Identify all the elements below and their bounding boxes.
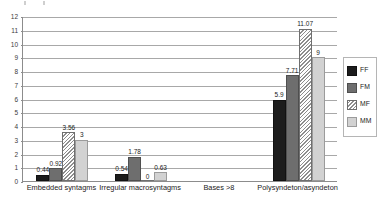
legend-item-ff[interactable]: FF xyxy=(347,62,376,79)
plot-area: 0.44 0.92 3.56 3 0.54 1.78 xyxy=(22,17,337,182)
bar-mm[interactable] xyxy=(312,57,325,181)
legend-swatch-icon xyxy=(347,83,357,93)
bar-mm[interactable] xyxy=(154,172,167,181)
legend-item-mf[interactable]: MF xyxy=(347,96,376,113)
y-tick-label: 11 xyxy=(11,28,18,35)
bar-ff[interactable] xyxy=(36,175,49,181)
y-tick-label: 4 xyxy=(14,124,18,131)
bar-group xyxy=(181,17,260,181)
legend-label: MM xyxy=(360,118,371,125)
bar-slot: 7.71 xyxy=(286,17,299,181)
bar-slot: 0.92 xyxy=(49,17,62,181)
x-category-label: Bases >8 xyxy=(203,184,234,192)
bar-slot: 0.54 xyxy=(115,17,128,181)
y-tick-label: 7 xyxy=(14,83,18,90)
y-tick-label: 1 xyxy=(14,165,18,172)
legend-swatch-icon xyxy=(347,117,357,127)
y-tick-label: 12 xyxy=(11,14,18,21)
bar-slot xyxy=(207,17,220,181)
y-tick-label: 10 xyxy=(11,41,18,48)
y-tick-label: 9 xyxy=(14,55,18,62)
bar-value-label: 1.78 xyxy=(128,149,141,156)
y-tick-label: 5 xyxy=(14,110,18,117)
x-category-label: Irregular macrosyntagms xyxy=(99,184,181,192)
bar-slot xyxy=(233,17,246,181)
bar-slot: 9 xyxy=(312,17,325,181)
legend-label: FF xyxy=(360,67,368,74)
bar-ff[interactable] xyxy=(115,174,128,181)
bar-mf[interactable] xyxy=(141,180,154,181)
y-axis-labels: 12 11 10 9 8 7 6 5 4 3 2 1 0 xyxy=(0,17,20,182)
x-category-label: Embedded syntagms xyxy=(27,184,96,192)
bar-mf[interactable] xyxy=(299,29,312,181)
bar-ff[interactable] xyxy=(273,100,286,181)
bar-slot xyxy=(220,17,233,181)
legend-item-fm[interactable]: FM xyxy=(347,79,376,96)
bar-fm[interactable] xyxy=(286,75,299,181)
bar-value-label: 3.56 xyxy=(63,125,76,132)
bar-slot: 3.56 xyxy=(62,17,75,181)
bar-mf[interactable] xyxy=(62,132,75,181)
bar-value-label: 0.92 xyxy=(50,161,63,168)
bar-value-label: 9 xyxy=(316,50,320,57)
bar-slot: 0 xyxy=(141,17,154,181)
bar-group: 0.54 1.78 0 0.63 xyxy=(102,17,181,181)
bar-slot: 11.07 xyxy=(299,17,312,181)
bar-value-label: 5.9 xyxy=(275,92,284,99)
legend-swatch-icon xyxy=(347,100,357,110)
y-tick-label: 3 xyxy=(14,138,18,145)
x-category-label: Polysyndeton/asyndeton xyxy=(257,184,338,192)
bar-group: 0.44 0.92 3.56 3 xyxy=(23,17,102,181)
y-tick-label: 2 xyxy=(14,151,18,158)
bar-slot: 1.78 xyxy=(128,17,141,181)
y-tick-label: 0 xyxy=(14,179,18,186)
legend-label: MF xyxy=(360,101,370,108)
bar-value-label: 7.71 xyxy=(286,68,299,75)
y-tick-label: 6 xyxy=(14,96,18,103)
bar-slot: 0.63 xyxy=(154,17,167,181)
legend-item-mm[interactable]: MM xyxy=(347,113,376,130)
bar-value-label: 0.54 xyxy=(115,166,128,173)
bar-value-label: 0.63 xyxy=(154,165,167,172)
bar-value-label: 0.44 xyxy=(37,167,50,174)
bar-group: 5.9 7.71 11.07 9 xyxy=(259,17,338,181)
bar-slot: 5.9 xyxy=(273,17,286,181)
bar-fm[interactable] xyxy=(49,168,62,181)
bar-slot: 0.44 xyxy=(36,17,49,181)
bar-fm[interactable] xyxy=(128,157,141,181)
bar-chart: 12 11 10 9 8 7 6 5 4 3 2 1 0 xyxy=(0,0,380,210)
bar-slot xyxy=(194,17,207,181)
bar-slot: 3 xyxy=(75,17,88,181)
cropped-top-artifact xyxy=(0,0,380,6)
bar-mm[interactable] xyxy=(75,140,88,181)
bar-value-label: 0 xyxy=(146,174,150,181)
legend: FF FM MF MM xyxy=(343,57,377,137)
legend-label: FM xyxy=(360,84,370,91)
y-tick-label: 8 xyxy=(14,69,18,76)
bar-value-label: 3 xyxy=(80,132,84,139)
x-axis-labels: Embedded syntagms Irregular macrosyntagm… xyxy=(22,184,337,206)
legend-swatch-icon xyxy=(347,66,357,76)
